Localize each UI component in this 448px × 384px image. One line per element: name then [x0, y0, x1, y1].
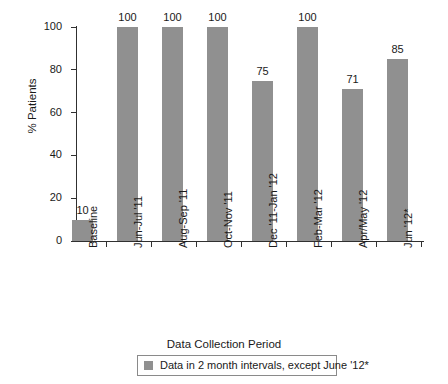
- x-axis-tick-label: Baseline: [88, 206, 99, 248]
- legend-swatch-icon: [144, 361, 153, 370]
- x-axis-tick-label: Jun-Jul '11: [133, 196, 144, 248]
- x-axis-tick-label: Jun '12*: [403, 209, 414, 248]
- bar-chart: % Patients 020406080100 1010010010075100…: [0, 0, 448, 384]
- legend-label: Data in 2 month intervals, except June '…: [160, 360, 369, 371]
- x-axis-tick-label: Aug-Sep '11: [178, 189, 189, 248]
- x-axis-tick-label: Dec '11-Jan '12: [268, 173, 279, 248]
- x-axis-tick-label: Feb-Mar '12: [313, 189, 324, 248]
- x-axis-tick-label: Oct-Nov '11: [223, 191, 234, 248]
- x-axis-title: Data Collection Period: [0, 338, 448, 350]
- x-axis-tick-label: Apr/May '12: [358, 190, 369, 248]
- chart-legend: Data in 2 month intervals, except June '…: [137, 355, 337, 376]
- x-axis-tick-labels: BaselineJun-Jul '11Aug-Sep '11Oct-Nov '1…: [0, 0, 448, 384]
